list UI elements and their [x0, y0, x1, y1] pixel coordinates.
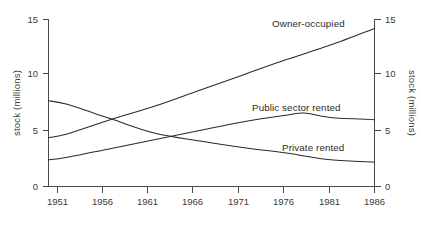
- left-y-ticks: [43, 20, 49, 187]
- x-ticks: [58, 187, 375, 193]
- housing-stock-line-chart: 15 10 5 0 15 10 5 0 1951 1956 1961 1966: [0, 0, 421, 230]
- series-label-private-rented: Private rented: [282, 142, 344, 153]
- y-axis-title-right: stock (millions): [407, 70, 418, 136]
- y-axis-title-left: stock (millions): [11, 70, 22, 136]
- y-tick-label-10: 10: [27, 68, 38, 79]
- y-tick-label-right-10: 10: [385, 68, 396, 79]
- y-tick-label-0: 0: [33, 181, 38, 192]
- x-tick-label-1986: 1986: [364, 196, 385, 207]
- x-tick-label-1961: 1961: [137, 196, 158, 207]
- x-tick-label-1956: 1956: [92, 196, 113, 207]
- y-tick-label-right-0: 0: [385, 181, 390, 192]
- y-tick-label-15: 15: [27, 14, 38, 25]
- x-tick-label-1951: 1951: [47, 196, 68, 207]
- y-tick-label-5: 5: [33, 125, 38, 136]
- y-tick-label-right-15: 15: [385, 14, 396, 25]
- series-label-owner-occupied: Owner-occupied: [272, 18, 345, 29]
- x-tick-label-1981: 1981: [319, 196, 340, 207]
- series-label-public-sector-rented: Public sector rented: [252, 102, 341, 113]
- x-tick-label-1971: 1971: [228, 196, 249, 207]
- y-tick-label-right-5: 5: [385, 125, 390, 136]
- x-tick-label-1966: 1966: [182, 196, 203, 207]
- chart-figure: 15 10 5 0 15 10 5 0 1951 1956 1961 1966: [0, 0, 421, 230]
- x-tick-label-1976: 1976: [273, 196, 294, 207]
- right-y-ticks: [375, 20, 381, 187]
